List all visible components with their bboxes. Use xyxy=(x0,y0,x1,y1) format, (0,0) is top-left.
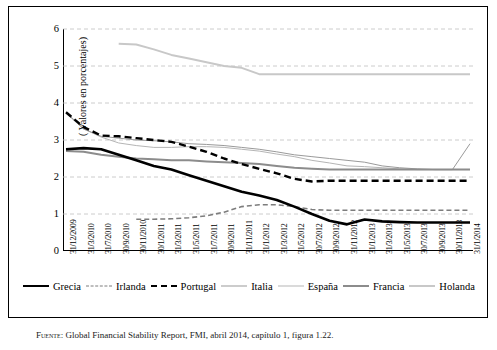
legend-label: Italia xyxy=(251,281,273,292)
caption-text: Global Financial Stability Report, FMI, … xyxy=(65,330,333,340)
legend-item: Portugal xyxy=(151,281,217,292)
legend-item: Italia xyxy=(221,281,273,292)
y-tick-label: 6 xyxy=(29,24,59,34)
x-tick-label: 31/3/2012 xyxy=(280,223,289,254)
y-tick-label: 3 xyxy=(29,135,59,145)
legend-item: Holanda xyxy=(409,281,475,292)
y-tick-label: 2 xyxy=(29,172,59,182)
x-tick-label: 30/9/2011 xyxy=(227,224,236,254)
x-tick-label: 30/11/2013 xyxy=(455,220,464,254)
legend-label: España xyxy=(308,281,338,292)
x-tick-label: 31/5/2013 xyxy=(403,223,412,254)
legend-label: Francia xyxy=(373,281,405,292)
x-tick-label: 31/1/2014 xyxy=(473,223,482,254)
series-line xyxy=(66,112,470,181)
series-line xyxy=(66,113,470,169)
legend-swatch xyxy=(23,283,49,290)
chart-figure: ( Valores en porcentajes) 0123456 31/12/… xyxy=(0,0,497,350)
x-tick-label: 31/3/2010 xyxy=(87,223,96,254)
y-axis-label: ( Valores en porcentajes) xyxy=(77,22,88,152)
x-tick-label: 31/5/2011 xyxy=(192,224,201,254)
legend-swatch xyxy=(409,283,435,290)
legend-item: España xyxy=(278,281,338,292)
legend-label: Irlanda xyxy=(116,281,146,292)
series-line xyxy=(66,148,470,224)
series-line xyxy=(66,151,470,170)
legend-swatch xyxy=(278,283,304,290)
legend-item: Irlanda xyxy=(86,281,146,292)
legend-swatch xyxy=(343,283,369,290)
x-tick-label: 31/7/2010 xyxy=(104,223,113,254)
x-tick-label: 30/9/2010 xyxy=(122,223,131,254)
x-tick-label: 31/1/2012 xyxy=(262,223,271,254)
x-tick-label: 30/9/2012 xyxy=(332,223,341,254)
x-tick-label: 31/7/2011 xyxy=(210,224,219,254)
series-line xyxy=(119,44,470,74)
y-tick-label: 5 xyxy=(29,61,59,71)
legend-label: Holanda xyxy=(439,281,475,292)
x-tick-label: 31/11/2012 xyxy=(350,220,359,254)
series-line xyxy=(66,112,470,169)
x-tick-label: 30/1/2011 xyxy=(157,224,166,254)
x-tick-label: 30/7/2012 xyxy=(315,223,324,254)
chart-frame: ( Valores en porcentajes) 0123456 31/12/… xyxy=(8,6,488,318)
legend-swatch xyxy=(86,283,112,290)
legend-item: Francia xyxy=(343,281,405,292)
x-tick-label: 30/9/2013 xyxy=(438,223,447,254)
chart-legend: GreciaIrlandaPortugalItaliaEspañaFrancia… xyxy=(23,275,475,297)
series-line xyxy=(136,205,470,219)
y-tick-label: 4 xyxy=(29,98,59,108)
x-tick-label: 31/3/2011 xyxy=(174,224,183,254)
legend-swatch xyxy=(151,283,177,290)
figure-caption: Fuente: Global Financial Stability Repor… xyxy=(36,330,466,341)
legend-label: Grecia xyxy=(53,281,81,292)
x-tick-label: 30/7/2013 xyxy=(420,223,429,254)
x-tick-label: 31/1/2013 xyxy=(368,223,377,254)
chart-canvas xyxy=(63,29,473,251)
x-tick-label: 31/3/2013 xyxy=(385,223,394,254)
y-tick-label: 0 xyxy=(29,246,59,256)
caption-source-label: Fuente: xyxy=(36,330,63,340)
x-tick-label: 31/5/2012 xyxy=(297,223,306,254)
y-tick-label: 1 xyxy=(29,209,59,219)
legend-label: Portugal xyxy=(181,281,217,292)
x-tick-label: 31/12/2009 xyxy=(69,220,78,254)
legend-swatch xyxy=(221,283,247,290)
plot-area: ( Valores en porcentajes) 0123456 31/12/… xyxy=(63,29,473,251)
legend-item: Grecia xyxy=(23,281,81,292)
x-tick-label: 30/11/2010 xyxy=(139,220,148,254)
x-tick-label: 31/11/2011 xyxy=(245,220,254,254)
